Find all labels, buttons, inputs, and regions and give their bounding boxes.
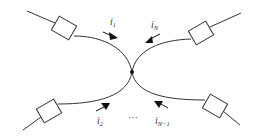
branch-wire — [132, 39, 191, 72]
label-i1: i1 — [110, 16, 116, 28]
lead-wire — [210, 13, 241, 27]
lead-wire — [27, 11, 55, 23]
label-iN: iN — [151, 19, 159, 31]
branch-wire — [74, 36, 132, 72]
lead-wire — [223, 111, 240, 125]
current-arrow-icon — [154, 101, 168, 108]
branch-bottom-left — [23, 72, 132, 130]
kcl-node-diagram: i1 iN i2 iN−1 ··· — [0, 0, 254, 138]
branch-wire — [132, 72, 205, 100]
element-box — [51, 16, 76, 40]
element-box — [188, 21, 213, 45]
junction-node-dot — [130, 70, 134, 74]
ellipsis-label: ··· — [128, 112, 138, 123]
element-box — [202, 94, 227, 118]
branch-bottom-right — [132, 72, 240, 125]
element-box — [36, 99, 61, 123]
label-iN-1: iN−1 — [155, 115, 170, 127]
current-arrow-icon — [96, 103, 110, 111]
branch-wire — [58, 72, 132, 104]
current-arrow-icon — [103, 32, 118, 40]
branch-top-right — [132, 13, 241, 72]
current-arrow-icon — [145, 34, 160, 43]
branch-top-left — [27, 11, 132, 72]
label-i2: i2 — [97, 115, 104, 127]
lead-wire — [23, 117, 41, 130]
